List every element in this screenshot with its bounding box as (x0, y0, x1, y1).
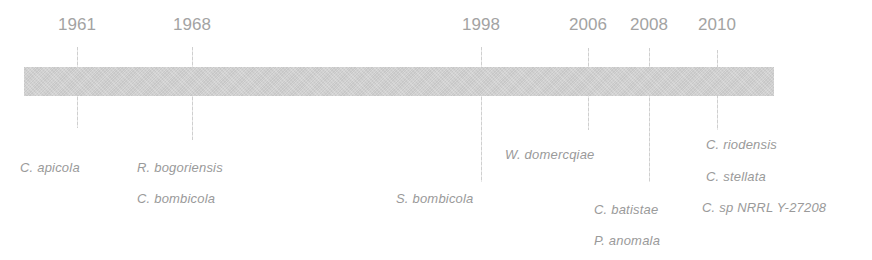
species-label: P. anomala (594, 233, 660, 248)
year-label-1961: 1961 (58, 15, 96, 35)
species-label: C. riodensis (706, 137, 777, 152)
species-label: R. bogoriensis (137, 160, 223, 175)
year-label-2006: 2006 (569, 15, 607, 35)
species-label: C. bombicola (137, 191, 215, 206)
timeline-bar (24, 67, 774, 96)
year-label-2010: 2010 (698, 15, 736, 35)
year-label-1968: 1968 (173, 15, 211, 35)
year-label-1998: 1998 (462, 15, 500, 35)
species-label: C. apicola (20, 160, 80, 175)
species-label: C. stellata (706, 169, 766, 184)
species-label: C. batistae (594, 202, 658, 217)
species-label: W. domercqiae (505, 147, 595, 162)
species-label: C. sp NRRL Y-27208 (702, 200, 826, 215)
species-label: S. bombicola (396, 191, 474, 206)
year-label-2008: 2008 (630, 15, 668, 35)
